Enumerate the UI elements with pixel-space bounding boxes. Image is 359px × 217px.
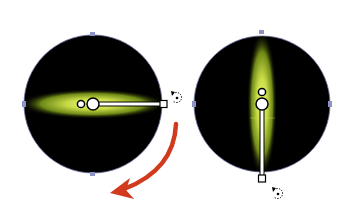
right-gradient-circle (192, 30, 332, 199)
anchor-point-right[interactable] (328, 101, 332, 107)
annotator-end-square[interactable] (259, 175, 266, 182)
annotator-end-square[interactable] (160, 101, 167, 108)
annotator-bar[interactable] (96, 102, 163, 106)
annotator-bar[interactable] (260, 108, 264, 176)
anchor-point-left[interactable] (192, 101, 196, 107)
anchor-point-top[interactable] (259, 30, 264, 34)
left-gradient-circle (19, 32, 182, 176)
rotate-cursor-icon (272, 187, 283, 199)
gradient-rotation-illustration (0, 0, 359, 217)
annotator-origin-small-circle[interactable] (258, 88, 265, 95)
anchor-point-left[interactable] (22, 101, 26, 107)
annotator-origin-circle[interactable] (256, 98, 268, 110)
annotator-origin-small-circle[interactable] (77, 100, 84, 107)
anchor-point-top[interactable] (90, 32, 95, 36)
rotate-cursor-icon (171, 91, 182, 103)
anchor-point-bottom[interactable] (90, 172, 95, 176)
annotator-origin-circle[interactable] (87, 98, 99, 110)
